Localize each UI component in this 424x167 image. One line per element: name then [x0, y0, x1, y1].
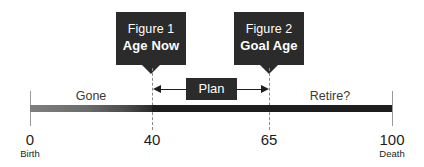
segment-label-retire: Retire?	[295, 89, 365, 103]
axis-label-40: 40	[132, 131, 172, 148]
callout-goal-age: Figure 2 Goal Age	[234, 12, 304, 65]
leader-line-goal-age	[269, 68, 270, 130]
plan-box: Plan	[186, 78, 237, 100]
arrow-right-shaft	[237, 89, 263, 90]
axis-sublabel-birth: Birth	[10, 148, 50, 159]
callout-goal-age-figure-label: Figure 2	[234, 21, 304, 37]
arrow-right-icon	[261, 85, 269, 93]
leader-line-age-now	[152, 68, 153, 130]
segment-label-gone: Gone	[56, 89, 126, 103]
callout-goal-age-title: Goal Age	[234, 37, 304, 54]
arrow-left-shaft	[160, 89, 186, 90]
callout-age-now-figure-label: Figure 1	[116, 21, 186, 37]
axis-label-0: 0	[10, 131, 50, 148]
timeline-bar-gone-segment	[30, 105, 152, 112]
axis-label-100: 100	[372, 131, 412, 148]
axis-label-65: 65	[249, 131, 289, 148]
axis-sublabel-death: Death	[372, 148, 412, 159]
timeline-bar-future-segment	[152, 105, 392, 112]
callout-age-now: Figure 1 Age Now	[116, 12, 186, 65]
timeline-diagram: Figure 1 Age Now Figure 2 Goal Age Gone …	[0, 0, 424, 167]
callout-age-now-title: Age Now	[116, 37, 186, 54]
